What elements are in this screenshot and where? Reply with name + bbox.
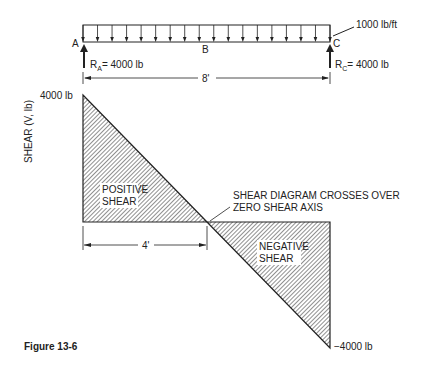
load-arrowhead — [183, 37, 187, 42]
load-arrowhead — [81, 37, 85, 42]
load-leader — [333, 27, 354, 36]
load-arrowhead — [285, 37, 289, 42]
load-arrowhead — [125, 37, 129, 42]
reaction-c-label: RC= 4000 lb — [335, 59, 389, 72]
negative-shear-label-1: NEGATIVE — [259, 241, 309, 252]
load-arrowhead — [328, 37, 332, 42]
load-arrowhead — [110, 37, 114, 42]
figure-caption: Figure 13-6 — [24, 341, 78, 352]
crossover-note-1: SHEAR DIAGRAM CROSSES OVER — [233, 190, 400, 201]
load-arrowhead — [226, 37, 230, 42]
reaction-a-label: RA= 4000 lb — [90, 59, 144, 72]
crossover-note-2: ZERO SHEAR AXIS — [233, 202, 323, 213]
distributed-load — [81, 25, 332, 42]
load-arrowhead — [197, 37, 201, 42]
load-arrowhead — [154, 37, 158, 42]
load-arrowhead — [270, 37, 274, 42]
crossover-leader — [210, 207, 230, 221]
span-label: 8' — [202, 73, 210, 84]
point-b-label: B — [202, 44, 209, 55]
negative-shear-label-2: SHEAR — [259, 253, 293, 264]
positive-shear-label-2: SHEAR — [102, 196, 136, 207]
point-a-label: A — [72, 38, 79, 49]
shear-diagram-figure: 1000 lb/ft A B C RA= 4000 lb RC= 4000 lb… — [0, 0, 424, 369]
min-shear-label: −4000 lb — [334, 341, 373, 352]
reaction-a-arrow — [80, 44, 88, 68]
load-arrowhead — [299, 37, 303, 42]
load-box — [83, 25, 330, 42]
load-arrowhead — [314, 37, 318, 42]
shear-axis-label: SHEAR (V, lb) — [23, 100, 34, 163]
max-shear-label: 4000 lb — [40, 90, 73, 101]
positive-shear-label-1: POSITIVE — [102, 184, 148, 195]
load-arrowhead — [96, 37, 100, 42]
load-arrowhead — [168, 37, 172, 42]
load-arrowhead — [139, 37, 143, 42]
load-arrowhead — [241, 37, 245, 42]
load-arrowhead — [212, 37, 216, 42]
point-c-label: C — [333, 38, 340, 49]
half-span-label: 4' — [142, 240, 150, 251]
load-arrowhead — [256, 37, 260, 42]
load-label: 1000 lb/ft — [356, 19, 397, 30]
